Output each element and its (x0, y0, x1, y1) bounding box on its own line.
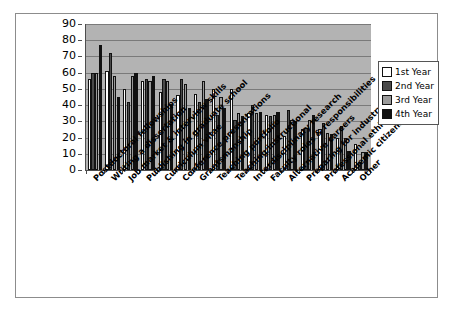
y-axis-tick-label: 30 (62, 116, 76, 126)
bar (99, 45, 102, 170)
y-axis-tick-label: 90 (62, 19, 76, 29)
legend-item[interactable]: 1st Year (382, 65, 434, 79)
bar (88, 79, 91, 170)
legend-item[interactable]: 3rd Year (382, 93, 434, 107)
bar (109, 53, 112, 170)
legend-item[interactable]: 4th Year (382, 107, 434, 121)
legend-label: 1st Year (395, 67, 431, 77)
legend-label: 4th Year (395, 109, 432, 119)
y-axis-tick-mark (78, 89, 82, 90)
y-axis-tick-mark (78, 138, 82, 139)
bar-group (86, 24, 104, 170)
y-axis-tick-mark (78, 154, 82, 155)
bar (105, 71, 108, 170)
legend-item[interactable]: 2nd Year (382, 79, 434, 93)
y-axis-tick-mark (78, 105, 82, 106)
y-axis-tick-label: 80 (62, 35, 76, 45)
legend-swatch-icon (382, 95, 392, 105)
legend-swatch-icon (382, 67, 392, 77)
legend-label: 3rd Year (395, 95, 432, 105)
bar (91, 73, 94, 170)
y-axis-tick-mark (78, 121, 82, 122)
bar (95, 73, 98, 170)
y-axis-tick-label: 60 (62, 68, 76, 78)
y-axis-tick-label: 10 (62, 149, 76, 159)
chart-frame: 0102030405060708090 Postdoctoral fellows… (15, 13, 438, 298)
y-axis-tick-label: 50 (62, 84, 76, 94)
y-axis-tick-label: 40 (62, 100, 76, 110)
chart-legend: 1st Year2nd Year3rd Year4th Year (378, 61, 439, 125)
y-axis: 0102030405060708090 (16, 24, 82, 170)
y-axis-tick-mark (78, 56, 82, 57)
chart-root: 0102030405060708090 Postdoctoral fellows… (0, 0, 454, 314)
y-axis-tick-label: 70 (62, 51, 76, 61)
y-axis-tick-label: 20 (62, 133, 76, 143)
x-axis-labels: Postdoctoral fellowshipsWriting a disser… (16, 174, 439, 294)
legend-swatch-icon (382, 81, 392, 91)
y-axis-tick-mark (78, 73, 82, 74)
y-axis-tick-mark (78, 170, 82, 171)
y-axis-tick-mark (78, 40, 82, 41)
legend-label: 2nd Year (395, 81, 434, 91)
y-axis-tick-mark (78, 24, 82, 25)
legend-swatch-icon (382, 109, 392, 119)
